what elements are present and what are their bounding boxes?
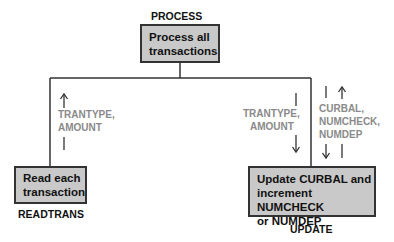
update-text-line2: increment NUMCHECK xyxy=(257,186,374,214)
update-text-line1: Update CURBAL and xyxy=(257,172,374,186)
flow-label-line: NUMDEP xyxy=(319,128,380,141)
readtrans-text-line2: transaction xyxy=(23,185,85,199)
readtrans-box: Read each transaction xyxy=(14,166,87,204)
process-text-line2: transactions xyxy=(149,44,218,58)
update-up-flow-label: CURBAL, NUMCHECK, NUMDEP xyxy=(319,102,380,141)
update-box: Update CURBAL and increment NUMCHECK or … xyxy=(248,166,376,217)
flow-label-line: CURBAL, xyxy=(319,102,380,115)
flow-label-line: AMOUNT xyxy=(243,120,300,133)
readtrans-text-line1: Read each xyxy=(23,171,85,185)
update-down-flow-label: TRANTYPE, AMOUNT xyxy=(243,107,300,133)
flow-label-line: TRANTYPE, xyxy=(58,108,115,121)
flow-label-line: TRANTYPE, xyxy=(243,107,300,120)
flow-label-line: NUMCHECK, xyxy=(319,115,380,128)
process-text-line1: Process all xyxy=(149,30,218,44)
readtrans-title: READTRANS xyxy=(18,208,84,220)
flow-label-line: AMOUNT xyxy=(58,121,115,134)
update-title: UPDATE xyxy=(290,223,332,235)
process-box: Process all transactions xyxy=(140,24,220,63)
readtrans-flow-label: TRANTYPE, AMOUNT xyxy=(58,108,115,134)
process-title: PROCESS xyxy=(151,10,202,22)
